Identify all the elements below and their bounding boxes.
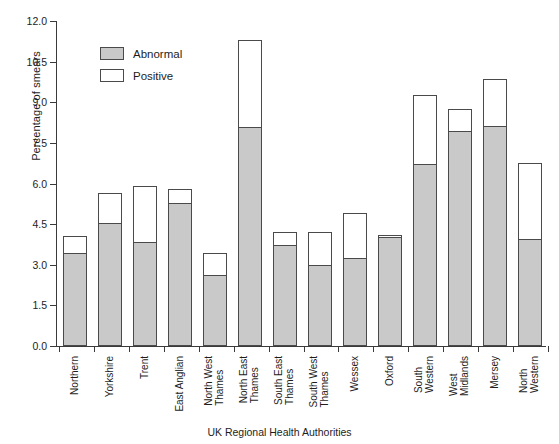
- legend-label-abnormal: Abnormal: [133, 48, 182, 60]
- bar-segment-abnormal: [204, 275, 226, 345]
- bar-north-western: [518, 163, 542, 346]
- legend-swatch-positive-icon: [100, 69, 124, 82]
- y-axis-line: [56, 21, 57, 347]
- y-tick-label: 3.0: [32, 259, 47, 271]
- legend-swatch-abnormal-icon: [100, 47, 124, 60]
- x-category-label: NorthWestern: [519, 356, 540, 393]
- bar-south-west-thames: [308, 232, 332, 346]
- x-tick: [548, 346, 549, 352]
- bar-segment-abnormal: [309, 265, 331, 345]
- bar-segment-abnormal: [414, 164, 436, 345]
- y-tick: [50, 346, 56, 347]
- x-category-label: SouthWestern: [414, 356, 435, 393]
- x-category-label: South EastThames: [274, 356, 295, 405]
- y-tick-label: 6.0: [32, 178, 47, 190]
- bar-mersey: [483, 79, 507, 346]
- x-category-label: South WestThames: [309, 356, 330, 408]
- y-tick-label: 9.0: [32, 96, 47, 108]
- x-category-label: East Anglian: [175, 356, 186, 412]
- bar-segment-abnormal: [379, 237, 401, 345]
- x-tick: [443, 346, 444, 352]
- y-tick-label: 10.5: [27, 56, 47, 68]
- y-tick-label: 12.0: [27, 15, 47, 27]
- x-category-label: Yorkshire: [105, 356, 116, 397]
- x-category-label: Oxford: [385, 356, 396, 386]
- y-tick: [50, 102, 56, 103]
- legend-label-positive: Positive: [133, 70, 173, 82]
- bar-south-western: [413, 95, 437, 346]
- y-tick: [50, 143, 56, 144]
- bar-segment-abnormal: [484, 126, 506, 345]
- x-category-label: Trent: [140, 356, 151, 379]
- bar-northern: [63, 236, 87, 346]
- x-category-label: Northern: [70, 356, 81, 395]
- x-tick: [513, 346, 514, 352]
- x-tick: [234, 346, 235, 352]
- x-category-label: WestMidlands: [449, 356, 470, 396]
- x-tick: [164, 346, 165, 352]
- x-tick: [129, 346, 130, 352]
- x-tick: [304, 346, 305, 352]
- bar-oxford: [378, 235, 402, 346]
- x-tick: [59, 346, 60, 352]
- x-category-label: Mersey: [490, 356, 501, 389]
- x-tick: [199, 346, 200, 352]
- y-tick-label: 1.5: [32, 299, 47, 311]
- bar-north-west-thames: [203, 253, 227, 346]
- bar-segment-abnormal: [344, 258, 366, 345]
- bar-segment-abnormal: [134, 242, 156, 345]
- x-tick: [478, 346, 479, 352]
- bar-segment-abnormal: [64, 253, 86, 345]
- bar-segment-abnormal: [99, 223, 121, 345]
- y-tick: [50, 62, 56, 63]
- x-tick: [338, 346, 339, 352]
- bar-segment-abnormal: [169, 203, 191, 345]
- x-tick: [408, 346, 409, 352]
- x-category-label: Wessex: [350, 356, 361, 391]
- x-tick: [94, 346, 95, 352]
- legend-item-positive: Positive: [100, 66, 182, 85]
- chart-figure: Percentage of smears 0.01.53.04.56.07.59…: [0, 0, 559, 444]
- x-tick: [373, 346, 374, 352]
- y-tick: [50, 305, 56, 306]
- bar-segment-abnormal: [274, 245, 296, 345]
- bar-trent: [133, 186, 157, 346]
- y-tick: [50, 184, 56, 185]
- x-category-label: North EastThames: [239, 356, 260, 403]
- bar-north-east-thames: [238, 40, 262, 346]
- bar-east-anglian: [168, 189, 192, 346]
- x-tick: [269, 346, 270, 352]
- x-axis-title: UK Regional Health Authorities: [0, 426, 559, 438]
- bar-segment-abnormal: [519, 239, 541, 345]
- bar-segment-abnormal: [239, 127, 261, 345]
- y-tick: [50, 224, 56, 225]
- bar-segment-abnormal: [449, 131, 471, 345]
- legend-item-abnormal: Abnormal: [100, 44, 182, 63]
- y-tick-label: 0.0: [32, 340, 47, 352]
- y-tick-label: 7.5: [32, 137, 47, 149]
- bar-wessex: [343, 213, 367, 346]
- y-tick: [50, 21, 56, 22]
- bar-west-midlands: [448, 109, 472, 346]
- y-tick: [50, 265, 56, 266]
- bar-yorkshire: [98, 193, 122, 346]
- y-tick-label: 4.5: [32, 218, 47, 230]
- bar-south-east-thames: [273, 232, 297, 346]
- legend: Abnormal Positive: [100, 44, 182, 88]
- x-category-label: North WestThames: [204, 356, 225, 406]
